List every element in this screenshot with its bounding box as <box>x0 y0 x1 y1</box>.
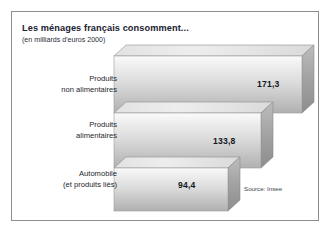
category-label-line: (et produits liés) <box>14 180 117 191</box>
bar-automobile <box>114 157 240 211</box>
category-label-produits-non-alimentaires: Produits non alimentaires <box>14 74 117 95</box>
bar-side-face <box>261 102 273 168</box>
bar-side-face <box>302 45 314 113</box>
category-label-automobile: Automobile (et produits liés) <box>14 169 117 190</box>
value-label-automobile: 94,4 <box>178 180 196 190</box>
category-label-produits-alimentaires: Produits alimentaires <box>14 120 117 141</box>
chart-figure: Les ménages français consomment... (en m… <box>0 0 330 234</box>
chart-frame: Les ménages français consomment... (en m… <box>11 11 319 221</box>
category-label-line: non alimentaires <box>14 85 117 96</box>
category-label-line: Produits <box>14 120 117 131</box>
category-label-line: alimentaires <box>14 131 117 142</box>
category-label-line: Produits <box>14 74 117 85</box>
bar-front-face <box>114 168 228 211</box>
bar-top-face <box>114 45 314 56</box>
source-note: Source: Insee <box>244 185 282 192</box>
bar-top-face <box>114 157 240 168</box>
category-label-line: Automobile <box>14 169 117 180</box>
value-label-produits-non-alimentaires: 171,3 <box>257 79 280 89</box>
value-label-produits-alimentaires: 133,8 <box>213 136 236 146</box>
bar-top-face <box>114 102 273 113</box>
